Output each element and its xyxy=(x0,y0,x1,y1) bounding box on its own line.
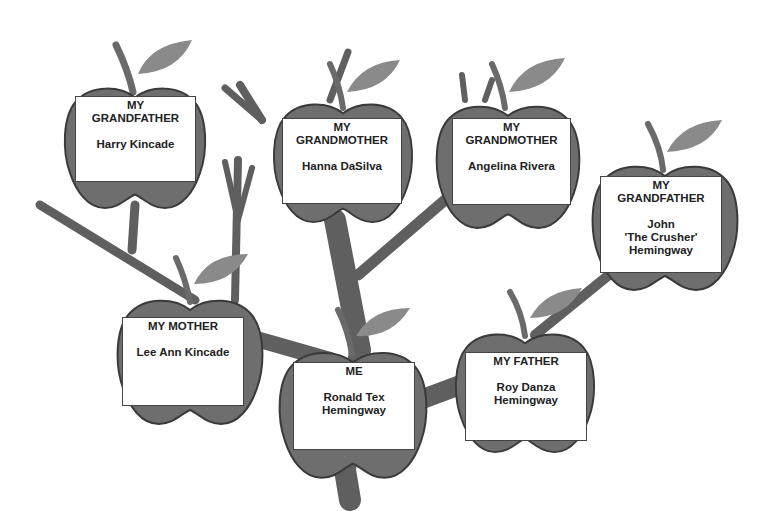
member-name: Roy Danza xyxy=(466,381,586,394)
member-name: 'The Crusher' xyxy=(601,231,721,244)
member-name: John xyxy=(601,218,721,231)
role-line: MY xyxy=(601,179,721,192)
role-line: GRANDMOTHER xyxy=(283,134,401,147)
card-father: MY FATHER Roy Danza Hemingway xyxy=(465,352,587,441)
member-name: Lee Ann Kincade xyxy=(123,346,243,359)
member-name: Harry Kincade xyxy=(76,138,195,151)
card-grandmother-1: MY GRANDMOTHER Hanna DaSilva xyxy=(282,118,402,204)
member-name: Hemingway xyxy=(601,244,721,257)
role-line: MY xyxy=(283,121,401,134)
role-line: GRANDFATHER xyxy=(601,192,721,205)
role-line: MY xyxy=(453,121,570,134)
card-grandfather-2: MY GRANDFATHER John 'The Crusher' Heming… xyxy=(600,176,722,273)
member-name: Ronald Tex xyxy=(294,391,414,404)
card-grandfather-1: MY GRANDFATHER Harry Kincade xyxy=(75,96,196,182)
card-mother: MY MOTHER Lee Ann Kincade xyxy=(122,317,244,406)
role-line: MY MOTHER xyxy=(123,320,243,333)
role-line: MY FATHER xyxy=(466,355,586,368)
member-name: Angelina Rivera xyxy=(453,160,570,173)
role-line: GRANDFATHER xyxy=(76,112,195,125)
member-name: Hanna DaSilva xyxy=(283,160,401,173)
member-name: Hemingway xyxy=(466,394,586,407)
member-name: Hemingway xyxy=(294,404,414,417)
role-line: ME xyxy=(294,365,414,378)
role-line: GRANDMOTHER xyxy=(453,134,570,147)
card-grandmother-2: MY GRANDMOTHER Angelina Rivera xyxy=(452,118,571,205)
card-me: ME Ronald Tex Hemingway xyxy=(293,362,415,450)
role-line: MY xyxy=(76,99,195,112)
